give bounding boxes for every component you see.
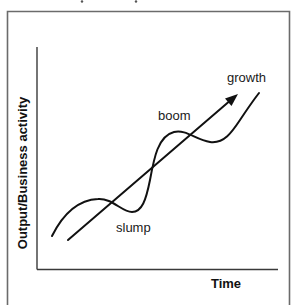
- outer-frame: [8, 12, 290, 305]
- slump-label: slump: [116, 220, 151, 235]
- growth-label: growth: [227, 70, 266, 85]
- y-axis-label: Output/Business activity: [15, 96, 30, 249]
- growth-trend-line: [68, 99, 232, 240]
- cutoff-caption: [81, 0, 137, 2]
- x-axis-label: Time: [211, 276, 241, 291]
- business-cycle-diagram: Output/Business activity Time growth boo…: [0, 0, 294, 305]
- boom-label: boom: [158, 108, 191, 123]
